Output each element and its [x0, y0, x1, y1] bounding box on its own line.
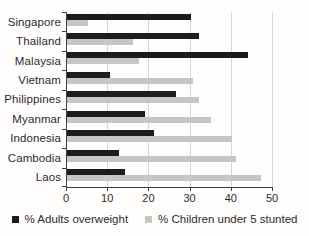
legend-item-children-stunted: % Children under 5 stunted: [145, 213, 297, 225]
children-stunted-bar: [67, 117, 211, 123]
x-tick-label: 0: [54, 192, 78, 204]
y-axis-tick: [62, 109, 66, 110]
y-axis-tick: [62, 51, 66, 52]
children-stunted-bar: [67, 20, 88, 26]
children-stunted-bar: [67, 58, 139, 64]
children-stunted-bar: [67, 97, 199, 103]
bar-chart-figure: SingaporeThailandMalaysiaVietnamPhilippi…: [0, 0, 309, 236]
x-tick-label: 50: [260, 192, 284, 204]
children-stunted-swatch-icon: [145, 216, 152, 223]
y-axis-tick: [62, 168, 66, 169]
plot-area: [66, 12, 273, 188]
category-label: Philippines: [0, 90, 61, 109]
x-tick-label: 40: [219, 192, 243, 204]
y-axis-tick: [62, 186, 66, 187]
children-stunted-bar: [67, 136, 232, 142]
category-label: Vietnam: [0, 70, 61, 89]
category-label: Laos: [0, 168, 61, 187]
gridline: [272, 12, 273, 187]
y-axis-tick: [62, 148, 66, 149]
x-axis-tick: [231, 188, 232, 191]
children-stunted-bar: [67, 39, 133, 45]
category-label: Myanmar: [0, 109, 61, 128]
legend-label-children-stunted: % Children under 5 stunted: [158, 213, 297, 225]
x-axis-tick: [272, 188, 273, 191]
x-axis-tick: [66, 188, 67, 191]
legend-item-adults-overweight: % Adults overweight: [12, 213, 129, 225]
x-tick-label: 30: [178, 192, 202, 204]
category-label: Malaysia: [0, 51, 61, 70]
legend: % Adults overweight % Children under 5 s…: [0, 210, 309, 228]
x-tick-label: 10: [95, 192, 119, 204]
category-label: Cambodia: [0, 148, 61, 167]
category-label: Indonesia: [0, 129, 61, 148]
x-axis-tick: [107, 188, 108, 191]
y-axis-tick: [62, 90, 66, 91]
adults-overweight-swatch-icon: [12, 216, 19, 223]
y-axis-tick: [62, 31, 66, 32]
x-tick-label: 20: [136, 192, 160, 204]
children-stunted-bar: [67, 156, 236, 162]
category-label: Singapore: [0, 12, 61, 31]
children-stunted-bar: [67, 78, 193, 84]
children-stunted-bar: [67, 175, 261, 181]
category-label: Thailand: [0, 31, 61, 50]
y-axis-tick: [62, 70, 66, 71]
y-axis-tick: [62, 129, 66, 130]
y-axis-tick: [62, 12, 66, 13]
x-axis-tick: [190, 188, 191, 191]
legend-label-adults-overweight: % Adults overweight: [25, 213, 129, 225]
x-axis-tick: [148, 188, 149, 191]
